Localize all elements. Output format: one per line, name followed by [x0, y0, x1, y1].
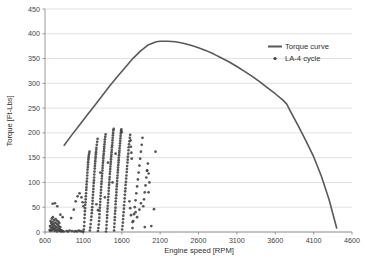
scatter-point	[126, 165, 129, 168]
scatter-point	[90, 212, 93, 215]
scatter-point	[112, 132, 115, 135]
scatter-point	[121, 228, 124, 231]
scatter-point	[51, 202, 54, 205]
scatter-point	[93, 173, 96, 176]
scatter-point	[119, 135, 122, 138]
scatter-point	[116, 183, 119, 186]
scatter-point	[110, 158, 113, 161]
scatter-point	[122, 221, 125, 224]
scatter-point	[118, 144, 121, 147]
scatter-point	[154, 150, 157, 153]
scatter-point	[97, 230, 100, 233]
legend-label-torque-curve: Torque curve	[285, 42, 329, 51]
chart-canvas: 050100150200250300350400450 600110016002…	[0, 0, 365, 265]
scatter-point	[120, 131, 123, 134]
scatter-point	[87, 161, 90, 164]
scatter-point	[150, 225, 153, 228]
scatter-point	[96, 137, 99, 140]
scatter-point	[97, 227, 100, 230]
scatter-point	[91, 209, 94, 212]
scatter-point	[144, 184, 147, 187]
scatter-point	[117, 161, 120, 164]
y-tick-200: 200	[28, 128, 40, 137]
scatter-point	[95, 203, 98, 206]
scatter-point	[68, 229, 71, 232]
scatter-point	[100, 183, 103, 186]
scatter-point	[116, 177, 119, 180]
scatter-point	[84, 210, 87, 213]
scatter-point	[110, 151, 113, 154]
scatter-point	[100, 192, 103, 195]
x-axis-title: Engine speed [RPM]	[164, 246, 234, 255]
scatter-point	[118, 149, 121, 152]
scatter-point	[97, 223, 100, 226]
scatter-point	[82, 228, 85, 231]
scatter-point	[126, 161, 129, 164]
scatter-point	[99, 203, 102, 206]
scatter-point	[126, 158, 129, 161]
scatter-point	[108, 184, 111, 187]
scatter-point	[107, 195, 110, 198]
scatter-point	[125, 171, 128, 174]
scatter-point	[136, 185, 139, 188]
scatter-point	[94, 160, 97, 163]
scatter-point	[107, 192, 110, 195]
scatter-point	[128, 200, 131, 203]
scatter-point	[109, 168, 112, 171]
scatter-point	[93, 179, 96, 182]
scatter-point	[86, 174, 89, 177]
scatter-point	[92, 182, 95, 185]
scatter-point	[103, 150, 106, 153]
scatter-point	[105, 220, 108, 223]
scatter-point	[78, 192, 81, 195]
scatter-point	[59, 226, 62, 229]
scatter-point	[137, 171, 140, 174]
scatter-point	[93, 170, 96, 173]
scatter-point	[104, 136, 107, 139]
scatter-point	[108, 176, 111, 179]
x-tick-3600: 3600	[267, 236, 283, 245]
scatter-point	[103, 145, 106, 148]
scatter-point	[85, 192, 88, 195]
scatter-point	[134, 211, 137, 214]
y-tick-300: 300	[28, 79, 40, 88]
scatter-point	[143, 191, 146, 194]
scatter-point	[51, 216, 54, 219]
scatter-point	[92, 193, 95, 196]
scatter-point	[83, 225, 86, 228]
scatter-point	[114, 200, 117, 203]
scatter-point	[127, 155, 130, 158]
scatter-point	[98, 213, 101, 216]
scatter-point	[104, 138, 107, 141]
scatter-point	[138, 164, 141, 167]
scatter-point	[147, 162, 150, 165]
scatter-point	[114, 212, 117, 215]
scatter-point	[128, 136, 131, 139]
x-tick-3100: 3100	[229, 236, 245, 245]
scatter-point	[126, 168, 129, 171]
scatter-point	[90, 219, 93, 222]
scatter-point	[96, 140, 99, 143]
scatter-point	[102, 152, 105, 155]
scatter-point	[54, 202, 57, 205]
scatter-point	[134, 199, 137, 202]
scatter-point	[109, 163, 112, 166]
scatter-point	[86, 166, 89, 169]
scatter-point	[91, 202, 94, 205]
scatter-point	[108, 178, 111, 181]
y-tick-50: 50	[32, 203, 40, 212]
scatter-point	[135, 192, 138, 195]
scatter-point	[91, 196, 94, 199]
scatter-point	[112, 128, 115, 131]
scatter-point	[123, 193, 126, 196]
scatter-point	[91, 206, 94, 209]
scatter-point	[129, 139, 132, 142]
scatter-point	[111, 141, 114, 144]
scatter-point	[147, 191, 150, 194]
legend-swatch-la4-cycle	[273, 57, 276, 60]
scatter-point	[89, 226, 92, 229]
scatter-point	[116, 180, 119, 183]
scatter-point	[143, 226, 146, 229]
scatter-point	[128, 143, 131, 146]
scatter-point	[106, 217, 109, 220]
